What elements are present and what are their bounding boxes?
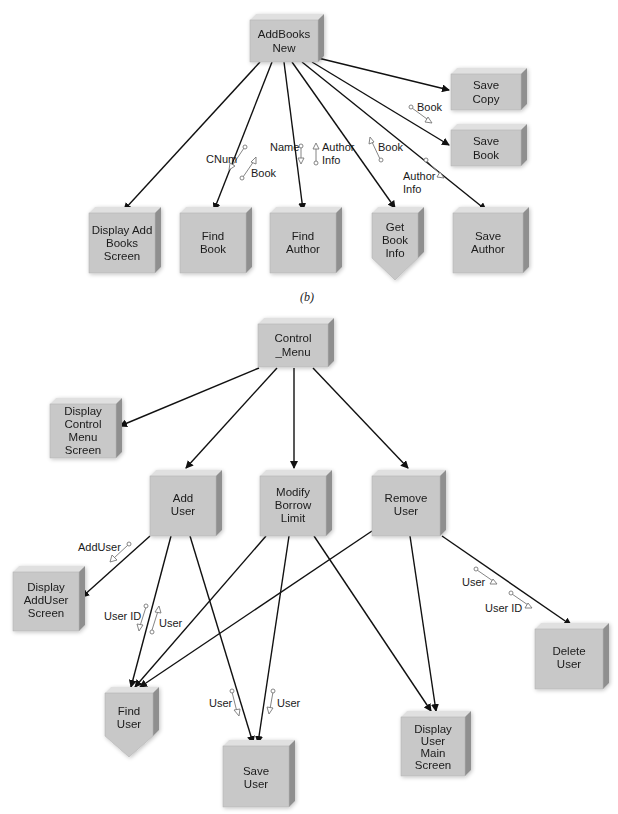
figure-caption: (b): [300, 290, 314, 304]
module-label-line: Book: [382, 234, 408, 246]
module-display-add-books-screen: Display Add Books Screen: [89, 207, 161, 273]
flow-label-book-savebook: Book: [417, 101, 443, 113]
module-find-user: Find User: [105, 687, 159, 757]
module-label-line: Remove: [385, 492, 428, 504]
flow-label-info: Info: [322, 154, 340, 166]
module-find-author: Find Author: [270, 207, 342, 273]
flow-label-adduser: AddUser: [78, 541, 121, 553]
edge-remove-to-find-user: [140, 531, 372, 687]
couple-user-saveuser-modify: [267, 689, 275, 714]
module-label-line: Save: [473, 79, 499, 91]
module-label-line: Display Add: [92, 224, 153, 236]
module-modify-borrow-limit: Modify Borrow Limit: [260, 470, 332, 536]
module-label-line: Main: [421, 747, 446, 759]
module-remove-user: Remove User: [372, 470, 446, 536]
module-label-line: Add: [173, 492, 193, 504]
module-save-user: Save User: [223, 740, 295, 807]
edge-addbooks-to-display-add-books-screen: [124, 62, 260, 210]
flow-label-user-finduser: User: [159, 617, 183, 629]
module-label-line: Delete: [552, 645, 585, 657]
couple-author-info: [313, 143, 319, 165]
module-delete-user: Delete User: [535, 623, 609, 689]
module-label-line: Menu: [69, 431, 98, 443]
module-find-book: Find Book: [180, 207, 252, 273]
module-label-line: AddUser: [24, 594, 69, 606]
flow-label-name: Name: [270, 141, 299, 153]
control-menu-diagram: AddUser User ID User User User User User…: [13, 318, 609, 807]
structure-chart-diagram: CNum Book Name Author Info Book Book Aut…: [0, 0, 618, 814]
flow-label-author: Author: [322, 141, 355, 153]
module-label-line: Modify: [276, 486, 310, 498]
module-label-line: AddBooks: [258, 28, 311, 40]
flow-label-userid-finduser: User ID: [104, 610, 141, 622]
module-label-line: Display: [414, 723, 452, 735]
module-display-adduser-screen: Display AddUser Screen: [13, 566, 85, 631]
module-addbooks-new: AddBooks New: [250, 14, 324, 62]
module-label-line: Display: [27, 581, 65, 593]
module-label-line: Books: [106, 237, 138, 249]
module-label-line: Save: [475, 230, 501, 242]
module-label-line: User: [394, 505, 418, 517]
flow-label-user-saveuser-add: User: [209, 697, 233, 709]
module-label-line: Find: [202, 230, 224, 242]
module-save-book: Save Book: [451, 124, 527, 166]
module-display-user-main-screen: Display User Main Screen: [401, 711, 471, 776]
module-label-line: Screen: [415, 759, 451, 771]
module-label-line: Screen: [104, 250, 140, 262]
module-label-line: User: [171, 505, 195, 517]
flow-label-book-findbook: Book: [251, 167, 277, 179]
addbooks-diagram: CNum Book Name Author Info Book Book Aut…: [89, 14, 529, 304]
module-label-line: Book: [200, 243, 226, 255]
module-label-line: User: [557, 658, 581, 670]
flow-label-info-saveauthor: Info: [403, 183, 421, 195]
module-control-menu: Control _Menu: [258, 318, 334, 367]
module-label-line: Screen: [65, 444, 101, 456]
edge-addbooks-to-find-book: [214, 62, 272, 210]
module-label-line: Control: [64, 418, 101, 430]
edge-control-to-display-control-menu-screen: [120, 368, 259, 426]
edge-addbooks-to-find-author: [284, 62, 303, 210]
edge-addbooks-to-get-book-info: [292, 62, 395, 208]
module-label-line: Copy: [473, 93, 500, 105]
module-save-copy: Save Copy: [451, 68, 527, 110]
module-label-line: Book: [473, 149, 499, 161]
flow-label-book-getbookinfo: Book: [378, 141, 404, 153]
module-label-line: Control: [274, 332, 311, 344]
module-label-line: Screen: [28, 607, 64, 619]
module-label-line: Find: [292, 230, 314, 242]
module-add-user: Add User: [150, 470, 222, 536]
module-label-line: Info: [385, 247, 404, 259]
addbooks-edges: [124, 58, 486, 210]
edge-addbooks-to-save-copy: [318, 58, 449, 90]
module-label-line: Save: [473, 135, 499, 147]
edge-modify-to-save-user: [258, 536, 289, 743]
module-label-line: User: [421, 735, 445, 747]
module-display-control-menu-screen: Display Control Menu Screen: [50, 398, 122, 458]
module-label-line: Find: [118, 705, 140, 717]
module-label-line: Author: [286, 243, 320, 255]
edge-control-to-add-user: [186, 368, 277, 468]
flow-label-user-saveuser-modify: User: [277, 697, 301, 709]
module-label-line: Author: [471, 243, 505, 255]
module-label-line: Save: [243, 765, 269, 777]
module-label-line: User: [244, 778, 268, 790]
module-label-line: Get: [386, 221, 405, 233]
flow-label-cnum: CNum: [206, 153, 237, 165]
module-label-line: Limit: [281, 512, 306, 524]
module-label-line: Display: [64, 405, 102, 417]
module-label-line: Borrow: [275, 499, 312, 511]
control-menu-edges: [82, 368, 571, 743]
edge-modify-to-find-user: [135, 536, 266, 687]
flow-label-userid-deleteuser: User ID: [485, 602, 522, 614]
module-get-book-info: Get Book Info: [372, 207, 424, 280]
module-label-line: User: [117, 718, 141, 730]
edge-control-to-remove-user: [313, 368, 408, 468]
flow-label-author-saveauthor: Author: [403, 170, 436, 182]
module-label-line: New: [272, 42, 296, 54]
module-save-author: Save Author: [453, 207, 529, 273]
module-label-line: _Menu: [274, 346, 310, 358]
edge-add-user-to-save-user: [190, 536, 253, 743]
flow-label-user-deleteuser: User: [462, 576, 486, 588]
